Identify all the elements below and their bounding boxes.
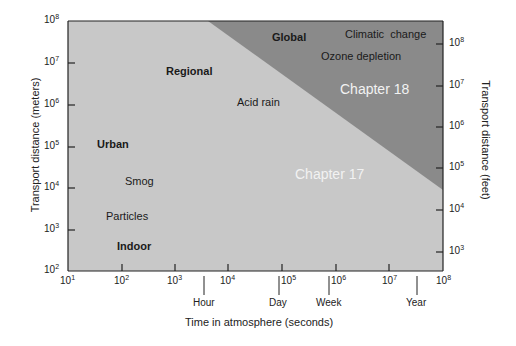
y-left-tick-1e8: 108 [44,14,59,25]
y-right-tick-1e3: 103 [449,245,464,256]
label-regional: Regional [166,65,212,77]
y-right-tick-1e7: 107 [449,79,464,90]
x-tick-1e8: 108 [436,275,451,286]
y-left-tick-1e5: 105 [44,140,59,151]
label-global: Global [272,31,306,43]
label-chapter-18: Chapter 18 [340,81,409,97]
label-ozone-depletion: Ozone depletion [321,50,401,62]
y-left-tick-1e4: 104 [44,181,59,192]
chart-canvas [0,0,516,346]
x-tick-1e7: 107 [382,275,397,286]
y-left-tick-1e6: 106 [44,98,59,109]
y-right-axis-title: Transport distance (feet) [480,80,492,199]
x-tick-1e6: 106 [331,275,346,286]
week-marker-label: Week [316,297,341,308]
x-tick-1e1: 101 [60,275,75,286]
label-acid-rain: Acid rain [237,96,280,108]
x-tick-1e4: 104 [220,275,235,286]
x-axis-title: Time in atmosphere (seconds) [185,316,333,328]
y-right-tick-1e5: 105 [449,161,464,172]
y-left-axis-title: Transport distance (meters) [29,78,41,213]
label-urban: Urban [97,138,129,150]
y-left-tick-1e2: 102 [44,264,59,275]
x-tick-1e5: 105 [281,275,296,286]
year-marker-label: Year [406,297,426,308]
label-climatic-change: Climatic change [345,28,426,40]
x-tick-1e2: 102 [114,275,129,286]
label-indoor: Indoor [117,240,151,252]
label-smog: Smog [125,175,154,187]
y-left-tick-1e3: 103 [44,223,59,234]
label-chapter-17: Chapter 17 [295,166,364,182]
y-right-tick-1e4: 104 [449,203,464,214]
y-right-tick-1e6: 106 [449,120,464,131]
label-particles: Particles [106,210,148,222]
x-tick-1e3: 103 [167,275,182,286]
day-marker-label: Day [269,297,287,308]
hour-marker-label: Hour [193,297,215,308]
y-left-tick-1e7: 107 [44,56,59,67]
y-right-tick-1e8: 108 [449,37,464,48]
